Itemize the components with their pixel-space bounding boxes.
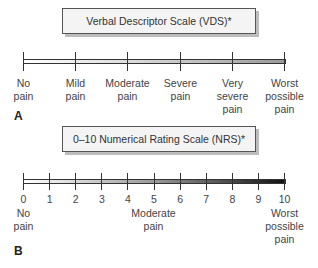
vds-label: No pain [14,77,34,103]
nrs-number: 3 [99,193,105,206]
vds-tick [75,52,76,71]
nrs-number: 0 [21,193,27,206]
vds-label: Severe pain [164,77,197,103]
vds-tick [180,52,181,71]
nrs-number: 2 [73,193,79,206]
vds-tick [127,52,128,71]
nrs-tick [180,173,181,190]
vds-title-box: Verbal Descriptor Scale (VDS)* [62,8,256,34]
vds-label: Very severe pain [217,77,249,116]
nrs-number: 9 [255,193,261,206]
nrs-number: 1 [47,193,53,206]
nrs-tick [49,173,50,190]
nrs-tick [23,173,24,190]
nrs-tick [101,173,102,190]
nrs-tick [206,173,207,190]
vds-tick [232,52,233,71]
nrs-anchor-label: Moderate pain [131,207,175,233]
nrs-tick [258,173,259,190]
vds-scale-bar [23,59,286,64]
nrs-title: 0–10 Numerical Rating Scale (NRS)* [73,133,245,145]
nrs-tick [284,173,285,190]
nrs-anchor-label: Worst possible pain [265,207,304,246]
nrs-number: 8 [229,193,235,206]
vds-label: Mild pain [66,77,86,103]
nrs-number: 5 [151,193,157,206]
nrs-anchor-label: No pain [14,207,34,233]
nrs-number: 7 [203,193,209,206]
panel-b-letter: B [14,244,23,258]
vds-label: Worst possible pain [265,77,304,116]
vds-tick [23,52,24,71]
vds-label: Moderate pain [105,77,149,103]
nrs-tick [232,173,233,190]
nrs-scale-bar [23,179,286,184]
nrs-number: 10 [279,193,291,206]
nrs-tick [127,173,128,190]
nrs-title-box: 0–10 Numerical Rating Scale (NRS)* [62,126,256,152]
panel-a-letter: A [14,109,23,123]
nrs-tick [154,173,155,190]
nrs-number: 4 [125,193,131,206]
nrs-number: 6 [177,193,183,206]
vds-title: Verbal Descriptor Scale (VDS)* [86,15,231,27]
nrs-tick [75,173,76,190]
vds-tick [284,52,285,71]
